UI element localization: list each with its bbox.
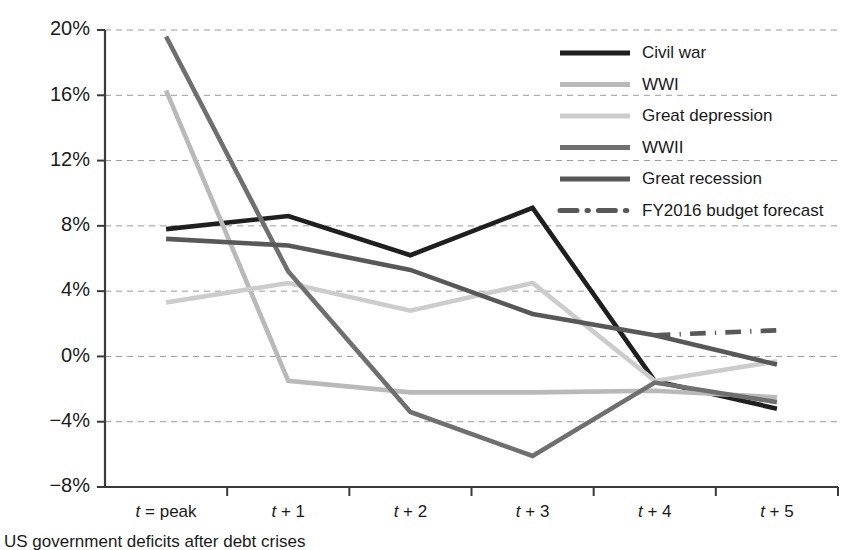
x-tick-label: t + 4 <box>638 502 672 521</box>
x-tick-label: t + 1 <box>271 502 305 521</box>
y-tick-label: −8% <box>49 474 90 496</box>
y-tick-label: 0% <box>61 344 90 366</box>
legend-label-wwi: WWI <box>642 75 679 94</box>
x-tick-label: t + 5 <box>760 502 794 521</box>
chart-canvas: 20%16%12%8%4%0%−4%−8% t = peakt + 1t + 2… <box>0 0 841 550</box>
legend-label-fy2016-budget-forecast: FY2016 budget forecast <box>642 201 824 220</box>
legend-label-civil-war: Civil war <box>642 43 707 62</box>
legend-label-great-recession: Great recession <box>642 169 762 188</box>
caption-label: US government deficits after debt crises <box>4 532 305 550</box>
legend-label-wwii: WWII <box>642 138 684 157</box>
deficit-line-chart: 20%16%12%8%4%0%−4%−8% t = peakt + 1t + 2… <box>0 0 841 550</box>
y-tick-label: 16% <box>50 83 90 105</box>
legend-label-great-depression: Great depression <box>642 106 772 125</box>
x-tick-label: t = peak <box>136 502 197 521</box>
chart-caption: US government deficits after debt crises <box>4 532 305 550</box>
y-tick-label: −4% <box>49 409 90 431</box>
x-tick-label: t + 2 <box>394 502 428 521</box>
y-tick-label: 12% <box>50 148 90 170</box>
x-tick-label: t + 3 <box>516 502 550 521</box>
y-tick-label: 20% <box>50 17 90 39</box>
y-tick-label: 8% <box>61 213 90 235</box>
y-tick-label: 4% <box>61 278 90 300</box>
